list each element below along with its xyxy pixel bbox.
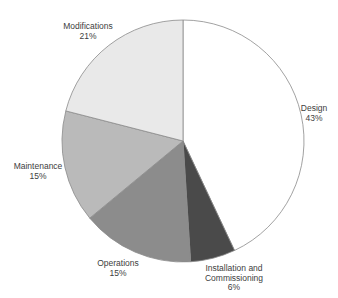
label-design-value: 43% xyxy=(301,114,327,124)
pie-slices xyxy=(62,20,304,262)
label-maintenance: Maintenance 15% xyxy=(14,162,63,181)
label-design: Design 43% xyxy=(301,104,327,123)
label-installation-value: 6% xyxy=(205,283,263,293)
label-installation: Installation and Commissioning 6% xyxy=(205,264,263,293)
label-modifications-value: 21% xyxy=(63,32,113,42)
label-modifications: Modifications 21% xyxy=(63,22,113,41)
label-operations-value: 15% xyxy=(97,269,139,279)
label-operations: Operations 15% xyxy=(97,259,139,278)
pie-chart xyxy=(0,0,338,298)
label-maintenance-value: 15% xyxy=(14,172,63,182)
